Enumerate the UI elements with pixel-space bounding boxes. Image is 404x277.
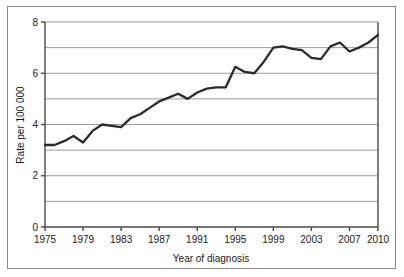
- y-axis-ticks: 02468: [32, 17, 45, 233]
- y-axis-title: Rate per 100 000: [15, 86, 26, 164]
- line-chart: 02468 1975197919831987199119951999200320…: [0, 0, 404, 277]
- x-axis-title: Year of diagnosis: [173, 253, 249, 264]
- x-tick-label: 2003: [300, 234, 323, 245]
- x-tick-label: 1975: [34, 234, 57, 245]
- x-tick-label: 1995: [224, 234, 247, 245]
- y-tick-label: 2: [32, 170, 38, 181]
- x-tick-label: 2007: [338, 234, 361, 245]
- x-tick-label: 1987: [148, 234, 171, 245]
- y-tick-label: 6: [32, 68, 38, 79]
- x-tick-label: 1983: [110, 234, 133, 245]
- y-tick-label: 8: [32, 17, 38, 28]
- y-tick-label: 4: [32, 119, 38, 130]
- x-tick-label: 1999: [262, 234, 285, 245]
- y-tick-label: 0: [32, 222, 38, 233]
- x-tick-label: 1991: [186, 234, 209, 245]
- x-tick-label: 2010: [367, 234, 390, 245]
- x-axis-ticks: 1975197919831987199119951999200320072010: [34, 227, 390, 245]
- figure: 02468 1975197919831987199119951999200320…: [0, 0, 404, 277]
- x-tick-label: 1979: [72, 234, 95, 245]
